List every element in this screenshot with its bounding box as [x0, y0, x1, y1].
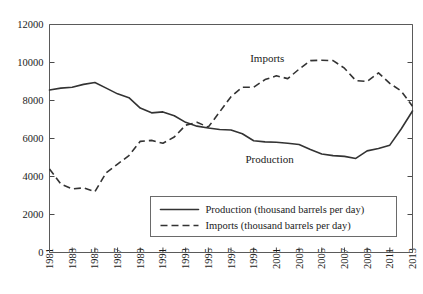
chart-container: 020004000600080001000012000 198119831985… — [0, 0, 423, 294]
x-tick-label: 1999 — [248, 248, 259, 269]
chart-legend: Production (thousand barrels per day) Im… — [151, 197, 397, 237]
x-tick-label: 1993 — [180, 248, 191, 269]
x-tick-label: 2005 — [316, 248, 327, 269]
x-tick-label: 1985 — [89, 248, 100, 269]
line-chart: 020004000600080001000012000 198119831985… — [0, 0, 423, 294]
x-tick-label: 1997 — [226, 248, 237, 269]
y-tick-label: 0 — [38, 247, 43, 258]
x-tick-label: 2011 — [384, 248, 395, 269]
x-tick-label: 1983 — [67, 248, 78, 269]
x-tick-label: 1995 — [203, 248, 214, 269]
x-tick-label: 1987 — [112, 248, 123, 269]
production-annotation-label: Production — [245, 153, 294, 165]
x-axis-tick-labels: 1981198319851987198919911993199519971999… — [44, 248, 418, 269]
x-tick-label: 1989 — [135, 248, 146, 269]
x-tick-label: 1991 — [157, 248, 168, 269]
legend-label-production: Production (thousand barrels per day) — [206, 204, 365, 216]
y-tick-label: 2000 — [23, 209, 44, 220]
y-tick-label: 6000 — [23, 133, 44, 144]
imports-annotation-label: Imports — [250, 52, 284, 64]
x-tick-label: 2007 — [339, 248, 350, 269]
y-tick-label: 4000 — [23, 171, 44, 182]
y-tick-label: 8000 — [23, 95, 44, 106]
x-tick-label: 2003 — [294, 248, 305, 269]
x-tick-label: 2009 — [362, 248, 373, 269]
legend-label-imports: Imports (thousand barrels per day) — [206, 220, 352, 232]
y-tick-label: 12000 — [17, 19, 43, 30]
y-tick-label: 10000 — [17, 57, 43, 68]
x-tick-label: 2001 — [271, 248, 282, 269]
